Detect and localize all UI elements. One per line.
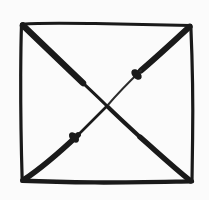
drawing-canvas <box>0 0 209 200</box>
square-left-edge <box>21 24 23 181</box>
figure-square-with-diagonals <box>0 0 209 200</box>
square-bottom-edge <box>22 181 192 183</box>
